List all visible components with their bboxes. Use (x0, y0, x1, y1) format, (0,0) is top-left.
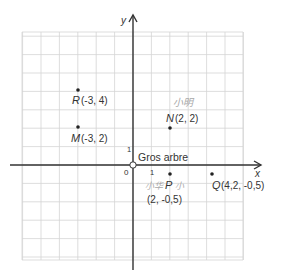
coordinate-plane: x y 0 1 1 Gros arbre R (-3, 4) M (-3, 2)… (0, 0, 284, 279)
handwriting-left-of-P: 小华 (145, 181, 164, 191)
point-N: N (2, 2) (166, 112, 198, 130)
point-name: M (71, 132, 81, 144)
point-dot (168, 126, 172, 130)
point-coords: (-3, 4) (81, 95, 108, 106)
point-coords: (2, -0,5) (147, 194, 182, 205)
point-name: N (166, 112, 174, 124)
point-coords: (4,2, -0,5) (221, 180, 264, 191)
point-coords: (2, 2) (175, 113, 198, 124)
origin-marker-label: Gros arbre (138, 151, 188, 163)
point-coords: (-3, 2) (81, 133, 108, 144)
x-tick-label: 1 (150, 168, 154, 177)
y-tick-label: 1 (127, 145, 131, 154)
origin-marker-icon (130, 162, 136, 168)
point-dot (76, 125, 80, 129)
point-name: P (165, 179, 173, 191)
handwriting-near-N: 小明 (173, 97, 195, 108)
point-dot (76, 88, 80, 92)
handwriting-right-of-P: 小 (175, 181, 185, 191)
point-name: R (72, 94, 80, 106)
x-axis-label: x (254, 168, 261, 179)
point-dot (168, 172, 172, 176)
point-R: R (-3, 4) (72, 88, 108, 106)
point-dot (210, 172, 214, 176)
origin-label: 0 (124, 168, 129, 177)
point-name: Q (212, 179, 221, 191)
y-axis-label: y (120, 15, 127, 26)
